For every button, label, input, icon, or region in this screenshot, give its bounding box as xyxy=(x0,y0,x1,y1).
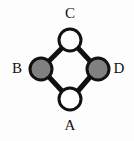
node-group xyxy=(30,29,109,110)
edge-group xyxy=(49,48,90,91)
edge-d-a xyxy=(78,77,90,91)
node-a[interactable] xyxy=(59,88,81,110)
node-label-b: B xyxy=(8,61,26,76)
node-b[interactable] xyxy=(30,58,52,80)
node-c[interactable] xyxy=(59,29,81,51)
edge-c-d xyxy=(78,48,90,61)
node-label-d: D xyxy=(110,61,128,76)
edge-b-a xyxy=(49,77,62,91)
node-d[interactable] xyxy=(87,58,109,80)
node-label-c: C xyxy=(56,6,84,21)
node-label-a: A xyxy=(56,118,84,133)
edge-c-b xyxy=(49,48,62,61)
graph-diagram-canvas: C B D A xyxy=(0,0,134,141)
